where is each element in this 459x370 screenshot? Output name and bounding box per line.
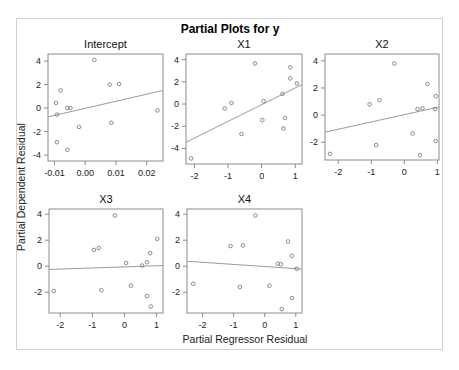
y-tick-label: 2 xyxy=(175,235,180,245)
data-point xyxy=(434,139,438,143)
plot-area xyxy=(186,54,302,164)
x-tick-label: 1 xyxy=(154,320,159,330)
data-point xyxy=(229,244,233,248)
x-tick-label: -1 xyxy=(88,320,96,330)
panel-x4: X4420-2-2-101 xyxy=(172,193,302,330)
y-tick-label: 2 xyxy=(37,235,42,245)
data-point xyxy=(290,296,294,300)
data-point xyxy=(426,82,430,86)
data-point xyxy=(230,101,234,105)
data-point xyxy=(191,282,195,286)
data-point xyxy=(100,288,104,292)
data-point xyxy=(156,109,160,113)
data-point xyxy=(254,214,258,218)
x-tick-label: 0 xyxy=(402,167,407,177)
data-point xyxy=(52,289,56,293)
y-tick-label: 2 xyxy=(174,77,179,87)
y-tick-label: 4 xyxy=(174,55,179,65)
y-tick-label: 0 xyxy=(174,99,179,109)
fit-line xyxy=(48,90,163,116)
data-point xyxy=(288,66,292,70)
data-point xyxy=(110,121,114,125)
y-tick-label: 0 xyxy=(37,261,42,271)
data-point xyxy=(261,118,265,122)
data-point xyxy=(77,125,81,129)
data-point xyxy=(295,82,299,86)
x-tick-label: 0 xyxy=(259,171,264,181)
y-tick-label: -4 xyxy=(33,150,41,160)
data-point xyxy=(280,307,284,311)
fit-line xyxy=(186,85,302,143)
x-tick-label: 1 xyxy=(293,320,298,330)
x-tick-label: 0.00 xyxy=(76,168,94,178)
x-tick-label: -1 xyxy=(224,171,232,181)
y-tick-label: 4 xyxy=(36,56,41,66)
data-point xyxy=(155,237,159,241)
data-point xyxy=(393,62,397,66)
x-tick-label: 0.01 xyxy=(107,168,125,178)
data-point xyxy=(113,214,117,218)
data-point xyxy=(149,305,153,309)
x-tick-label: -0.01 xyxy=(44,168,65,178)
chart-title: Partial Plots for y xyxy=(181,22,280,36)
panel-intercept: Intercept420-2-4-0.010.000.010.02 xyxy=(33,38,163,178)
y-axis-title: Partial Dependent Residual xyxy=(15,123,27,251)
panel-x1: X1420-2-4-2-101 xyxy=(171,38,302,181)
y-tick-label: -2 xyxy=(33,127,41,137)
x-tick-label: -2 xyxy=(56,320,64,330)
data-point xyxy=(189,157,193,161)
data-point xyxy=(241,244,245,248)
data-point xyxy=(124,261,128,265)
x-tick-label: 1 xyxy=(435,167,440,177)
x-tick-label: -1 xyxy=(230,320,238,330)
panel-title: X4 xyxy=(238,193,251,205)
y-tick-label: 4 xyxy=(175,209,180,219)
x-tick-label: -2 xyxy=(199,320,207,330)
fit-line xyxy=(187,261,302,269)
panel-title: X3 xyxy=(99,193,112,205)
panel-x3: X3420-2-2-101 xyxy=(34,193,163,330)
x-tick-label: -2 xyxy=(334,167,342,177)
data-point xyxy=(290,254,294,258)
y-tick-label: 2 xyxy=(313,83,318,93)
data-point xyxy=(411,132,415,136)
data-point xyxy=(240,132,244,136)
data-point xyxy=(93,58,97,62)
partial-plots-chart: Partial Plots for y Partial Dependent Re… xyxy=(0,0,459,370)
data-point xyxy=(66,148,70,152)
panel-title: X2 xyxy=(375,38,388,50)
plot-area xyxy=(187,209,302,313)
data-point xyxy=(286,240,290,244)
data-point xyxy=(262,99,266,103)
x-tick-label: 0 xyxy=(122,320,127,330)
data-point xyxy=(418,153,422,157)
data-point xyxy=(374,143,378,147)
y-tick-label: -2 xyxy=(172,287,180,297)
data-point xyxy=(148,251,152,255)
data-point xyxy=(145,261,149,265)
data-point xyxy=(282,127,286,131)
data-point xyxy=(328,152,332,156)
data-point xyxy=(55,140,59,144)
fit-line xyxy=(49,266,163,270)
data-point xyxy=(368,102,372,106)
data-point xyxy=(59,89,63,93)
data-point xyxy=(238,285,242,289)
x-tick-label: 1 xyxy=(293,171,298,181)
x-tick-label: 0 xyxy=(262,320,267,330)
y-tick-label: 0 xyxy=(175,261,180,271)
data-point xyxy=(54,101,58,105)
panel-title: X1 xyxy=(237,38,250,50)
panel-x2: X2420-2-2-101 xyxy=(310,38,440,177)
data-point xyxy=(421,107,425,111)
panel-title: Intercept xyxy=(84,38,127,50)
y-tick-label: -4 xyxy=(171,143,179,153)
data-point xyxy=(108,83,112,87)
plot-area xyxy=(48,54,163,161)
data-point xyxy=(92,248,96,252)
x-tick-label: 0.02 xyxy=(138,168,156,178)
x-tick-label: -2 xyxy=(190,171,198,181)
y-tick-label: 4 xyxy=(37,209,42,219)
data-point xyxy=(253,62,257,66)
data-point xyxy=(434,94,438,98)
